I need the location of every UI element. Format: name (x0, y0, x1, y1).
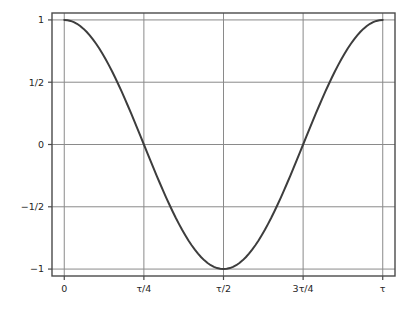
cosine-plot: 0τ/4τ/23τ/4τ 11/20−1/2−1 (0, 0, 414, 310)
x-tick-label: 0 (61, 283, 67, 294)
x-tick-label: τ/2 (216, 283, 231, 294)
x-tick-label: τ (380, 283, 386, 294)
figure-canvas: 0τ/4τ/23τ/4τ 11/20−1/2−1 (0, 0, 414, 310)
y-tick-label: −1 (30, 263, 44, 274)
x-tick-label: 3τ/4 (293, 283, 314, 294)
y-tick-label: −1/2 (21, 201, 44, 212)
y-tick-label: 1/2 (29, 77, 44, 88)
x-tick-label: τ/4 (136, 283, 151, 294)
y-tick-label: 0 (38, 139, 44, 150)
y-tick-label: 1 (38, 14, 44, 25)
